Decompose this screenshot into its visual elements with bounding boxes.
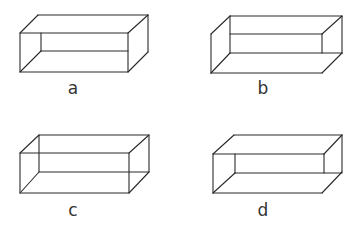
- box-a-label: a: [68, 80, 78, 97]
- box-b-label: b: [258, 80, 269, 97]
- box-b-drawing: [211, 16, 342, 73]
- box-c-drawing: [20, 135, 149, 193]
- box-c-label: c: [68, 202, 77, 219]
- box-d-label: d: [258, 202, 269, 219]
- box-a-drawing: [20, 15, 148, 72]
- figure-canvas: a b c d: [0, 0, 361, 225]
- box-d-drawing: [213, 135, 342, 193]
- boxes-diagram: [0, 0, 361, 225]
